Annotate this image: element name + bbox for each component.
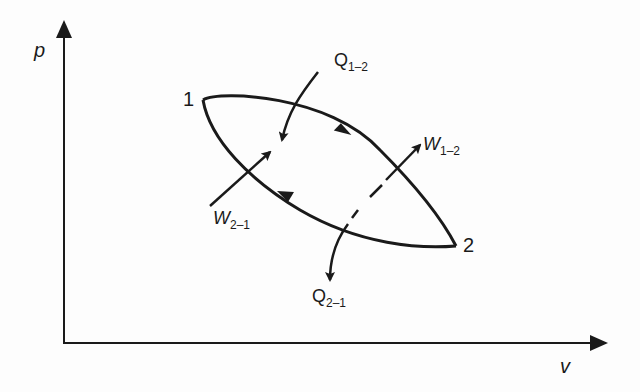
heat-out-q21: Q2–1 <box>312 210 358 310</box>
w21-label: W2–1 <box>213 208 250 232</box>
q21-arrow-tail <box>352 210 358 218</box>
w12-arrow-tail <box>370 185 382 197</box>
pv-diagram: p v 1 2 Q1–2 W2–1 <box>0 0 640 392</box>
w12-label: W1–2 <box>423 134 460 158</box>
heat-in-q12: Q1–2 <box>282 50 368 140</box>
state-labels: 1 2 <box>183 88 474 256</box>
q21-subscript: 2–1 <box>326 296 346 310</box>
p-axis-label: p <box>33 39 45 61</box>
q21-label: Q2–1 <box>312 286 346 310</box>
w21-subscript: 2–1 <box>230 218 250 232</box>
q12-subscript: 1–2 <box>348 60 368 74</box>
axes: p v <box>33 22 606 377</box>
q21-symbol: Q <box>312 286 326 306</box>
pv-diagram-canvas: p v 1 2 Q1–2 W2–1 <box>0 0 640 392</box>
w12-subscript: 1–2 <box>440 144 460 158</box>
state-1-label: 1 <box>183 88 194 110</box>
state-2-label: 2 <box>463 234 474 256</box>
w21-arrow <box>210 152 270 206</box>
v-axis-label: v <box>560 355 571 377</box>
q12-symbol: Q <box>334 50 348 70</box>
q12-label: Q1–2 <box>334 50 368 74</box>
